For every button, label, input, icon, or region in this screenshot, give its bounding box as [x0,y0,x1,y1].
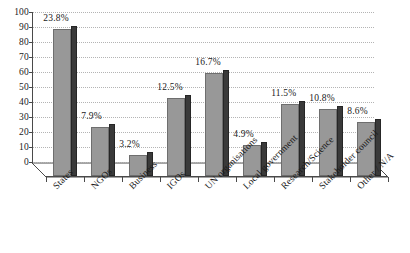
bar-side-face [185,95,191,176]
x-axis-tick [388,177,389,182]
x-axis-tick [312,177,313,182]
x-axis-tick [274,177,275,182]
bar-value-label: 11.5% [271,88,296,98]
bar-front-face [167,98,184,176]
y-axis-tick [29,132,33,133]
x-axis-tick [46,177,47,182]
y-axis-tick [29,162,33,163]
bar-value-label: 12.5% [157,82,183,92]
bar-front-face [53,29,70,176]
bar-value-label: 7.9% [81,111,102,121]
x-axis-tick [122,177,123,182]
x-axis-tick [236,177,237,182]
x-axis-tick [350,177,351,182]
bar-value-label: 3.2% [119,139,140,149]
y-axis-tick [29,117,33,118]
y-axis-tick-label: 60 [19,67,29,77]
y-axis-tick-label: 100 [14,7,29,17]
y-axis-tick-label: 40 [19,97,29,107]
y-axis-tick [29,147,33,148]
x-axis-tick [84,177,85,182]
y-axis-tick [29,102,33,103]
y-axis-tick-label: 90 [19,22,29,32]
bars-group [46,26,388,176]
bar [53,29,70,176]
bar-value-label: 23.8% [43,13,69,23]
y-axis-tick [29,12,33,13]
y-axis-tick [29,57,33,58]
bar-front-face [205,73,222,177]
y-axis-tick-label: 10 [19,142,29,152]
x-axis-tick [198,177,199,182]
bar-value-label: 10.8% [309,93,335,103]
bar-value-label: 16.7% [195,57,221,67]
y-axis-tick [29,42,33,43]
y-axis-tick [29,72,33,73]
y-axis-tick-label: 50 [19,82,29,92]
y-axis-tick-label: 80 [19,37,29,47]
gridline [32,12,374,13]
y-axis-tick-label: 0 [24,157,29,167]
bar [205,73,222,177]
floor-left-edge [32,163,46,177]
bar-value-label: 8.6% [347,106,368,116]
y-axis-tick-label: 70 [19,52,29,62]
y-axis: 0102030405060708090100 [32,12,33,163]
bar-side-face [71,26,77,176]
y-axis-tick [29,27,33,28]
y-axis-tick [29,87,33,88]
bar-chart: 0102030405060708090100 23.8%7.9%3.2%12.5… [0,0,410,253]
y-axis-tick-label: 20 [19,127,29,137]
bar [167,98,184,176]
x-axis-tick [160,177,161,182]
y-axis-tick-label: 30 [19,112,29,122]
